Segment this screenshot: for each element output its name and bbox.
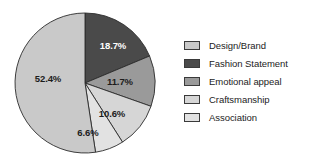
legend-item[interactable]: Emotional appeal — [184, 72, 308, 90]
pie-slice-data-label: 18.7% — [100, 40, 127, 51]
legend-item-label: Design/Brand — [209, 40, 266, 51]
pie-plot-area: 18.7%11.7%10.6%6.6%52.4% — [0, 0, 160, 158]
legend-item[interactable]: Design/Brand — [184, 36, 308, 54]
pie-slice-data-label: 10.6% — [99, 108, 126, 119]
legend-item-label: Association — [209, 112, 257, 123]
legend-item[interactable]: Fashion Statement — [184, 54, 308, 72]
legend-swatch-icon — [184, 41, 200, 50]
legend-item-label: Craftsmanship — [209, 94, 270, 105]
pie-slice-data-label: 11.7% — [107, 76, 134, 87]
legend-item[interactable]: Association — [184, 108, 308, 126]
legend-swatch-icon — [184, 77, 200, 86]
legend-swatch-icon — [184, 113, 200, 122]
legend-item-label: Emotional appeal — [209, 76, 282, 87]
legend-item-label: Fashion Statement — [209, 58, 288, 69]
legend-swatch-icon — [184, 95, 200, 104]
legend-swatch-icon — [184, 59, 200, 68]
pie-svg: 18.7%11.7%10.6%6.6%52.4% — [0, 0, 160, 158]
pie-chart-figure: 18.7%11.7%10.6%6.6%52.4% Design/BrandFas… — [0, 0, 310, 158]
pie-slice-data-label: 6.6% — [77, 127, 99, 138]
pie-slice-data-label: 52.4% — [35, 73, 62, 84]
legend-item[interactable]: Craftsmanship — [184, 90, 308, 108]
chart-legend: Design/BrandFashion StatementEmotional a… — [184, 36, 308, 126]
